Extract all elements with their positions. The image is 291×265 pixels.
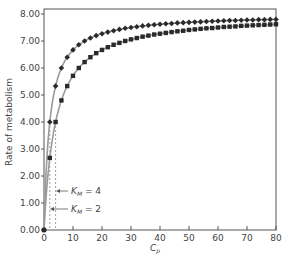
diamond-marker xyxy=(238,17,244,23)
square-marker xyxy=(94,51,98,55)
square-marker xyxy=(158,32,162,36)
square-marker xyxy=(71,74,75,78)
diamond-marker xyxy=(233,18,239,24)
diamond-marker xyxy=(262,17,268,23)
square-marker xyxy=(82,60,86,64)
square-marker xyxy=(164,31,168,35)
square-marker xyxy=(198,27,202,31)
square-marker xyxy=(65,84,69,88)
diamond-marker xyxy=(273,17,279,23)
y-tick-label: 6.00 xyxy=(20,63,40,73)
km2-annotation: KM = 2 xyxy=(50,204,101,215)
y-tick-label: 8.00 xyxy=(20,9,40,19)
diamond-marker xyxy=(88,35,94,41)
square-marker xyxy=(77,66,81,70)
square-marker xyxy=(245,23,249,27)
diamond-marker xyxy=(117,27,123,33)
diamond-marker xyxy=(209,18,215,24)
square-marker xyxy=(111,43,115,47)
diamond-marker xyxy=(221,18,227,24)
square-marker xyxy=(59,98,63,102)
diamond-marker xyxy=(204,19,210,25)
square-marker xyxy=(256,23,260,27)
square-marker xyxy=(146,33,150,37)
diamond-marker xyxy=(53,83,59,89)
square-marker xyxy=(129,37,133,41)
michaelis-menten-chart: 0.001.002.003.004.005.006.007.008.00 010… xyxy=(0,0,291,265)
square-marker xyxy=(48,156,52,160)
diamond-marker xyxy=(140,23,146,29)
curves xyxy=(44,19,276,230)
diamond-marker xyxy=(244,17,250,23)
square-marker xyxy=(169,30,173,34)
diamond-marker xyxy=(157,21,163,27)
square-marker xyxy=(210,26,214,30)
square-marker xyxy=(123,39,127,43)
diamond-marker xyxy=(134,24,140,30)
diamond-marker xyxy=(198,19,204,25)
square-marker xyxy=(100,48,104,52)
x-tick-label: 50 xyxy=(183,233,195,243)
diamond-marker xyxy=(47,119,53,125)
square-marker xyxy=(53,120,57,124)
x-tick-label: 80 xyxy=(270,233,282,243)
square-marker xyxy=(135,36,139,40)
y-axis-ticks: 0.001.002.003.004.005.006.007.008.00 xyxy=(20,9,44,235)
square-marker xyxy=(204,26,208,30)
square-marker xyxy=(216,25,220,29)
diamond-marker xyxy=(256,17,262,23)
y-tick-label: 5.00 xyxy=(20,90,40,100)
x-tick-label: 30 xyxy=(125,233,137,243)
square-marker xyxy=(106,45,110,49)
diamond-marker xyxy=(192,19,198,25)
x-tick-label: 40 xyxy=(154,233,166,243)
diamond-marker xyxy=(186,20,192,26)
x-tick-label: 70 xyxy=(241,233,253,243)
diamond-marker xyxy=(175,20,181,26)
x-axis-title: Cp xyxy=(150,243,160,255)
diamond-marker xyxy=(250,17,256,23)
square-marker xyxy=(268,22,272,26)
diamond-marker xyxy=(105,29,111,35)
y-tick-label: 2.00 xyxy=(20,171,40,181)
square-marker xyxy=(140,34,144,38)
y-tick-label: 7.00 xyxy=(20,36,40,46)
square-marker xyxy=(42,228,46,232)
square-marker xyxy=(193,27,197,31)
x-tick-label: 10 xyxy=(67,233,79,243)
diamond-marker xyxy=(169,21,175,27)
square-marker xyxy=(262,23,266,27)
diamond-marker xyxy=(128,25,134,31)
square-marker xyxy=(181,29,185,33)
square-marker xyxy=(152,32,156,36)
svg-text:KM = 2: KM = 2 xyxy=(71,204,101,215)
diamond-marker xyxy=(93,33,99,39)
y-tick-label: 4.00 xyxy=(20,117,40,127)
data-markers xyxy=(41,17,279,233)
diamond-marker xyxy=(59,65,65,71)
square-marker xyxy=(239,24,243,28)
y-tick-label: 0.00 xyxy=(20,225,40,235)
km4-annotation: KM = 4 xyxy=(56,186,101,197)
diamond-marker xyxy=(180,20,186,26)
square-marker xyxy=(222,25,226,29)
y-tick-label: 3.00 xyxy=(20,144,40,154)
diamond-marker xyxy=(122,26,128,32)
square-marker xyxy=(227,24,231,28)
x-axis-ticks: 01020304050607080 xyxy=(41,226,282,243)
y-tick-label: 1.00 xyxy=(20,198,40,208)
square-marker xyxy=(88,55,92,59)
diamond-marker xyxy=(215,18,221,24)
square-marker xyxy=(187,28,191,32)
x-tick-label: 0 xyxy=(41,233,47,243)
square-marker xyxy=(251,23,255,27)
square-marker xyxy=(233,24,237,28)
svg-text:KM = 4: KM = 4 xyxy=(71,186,101,197)
x-tick-label: 60 xyxy=(212,233,224,243)
diamond-marker xyxy=(146,23,152,29)
diamond-marker xyxy=(267,17,273,23)
diamond-marker xyxy=(111,28,117,34)
y-axis-title: Rate of metabolism xyxy=(4,78,14,166)
square-marker xyxy=(117,41,121,45)
square-marker xyxy=(175,29,179,33)
